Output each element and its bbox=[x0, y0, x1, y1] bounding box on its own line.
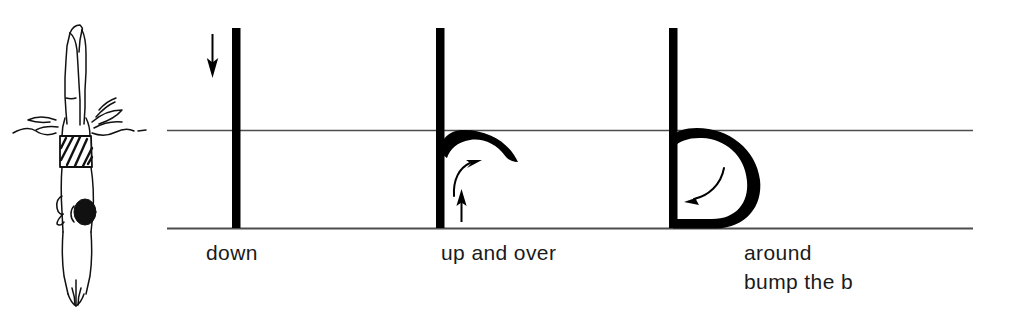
letter-stem-step1 bbox=[232, 28, 241, 228]
step-1-group bbox=[207, 28, 241, 228]
down-arrow-icon bbox=[207, 34, 218, 78]
step-2-group bbox=[436, 28, 518, 228]
letter-formation-worksheet bbox=[160, 0, 1014, 318]
step-3-label-line-2: bump the b bbox=[744, 267, 853, 296]
handwriting-worksheet-page: down up and over around bump the b bbox=[0, 0, 1014, 318]
curved-arrow-around-icon bbox=[684, 168, 724, 205]
letter-stem-step3 bbox=[669, 28, 678, 228]
step-1-label: down bbox=[206, 238, 258, 267]
letter-hook-step2 bbox=[441, 130, 518, 162]
guideline-group bbox=[167, 131, 973, 229]
letter-bowl-step3 bbox=[672, 128, 760, 229]
curved-arrow-over-icon bbox=[454, 160, 482, 196]
up-arrow-icon bbox=[456, 189, 466, 222]
step-2-label: up and over bbox=[441, 238, 556, 267]
step-3-label-line-1: around bbox=[744, 238, 853, 267]
step-3-label: around bump the b bbox=[744, 238, 853, 296]
diver-illustration bbox=[0, 0, 160, 318]
step-3-group bbox=[669, 28, 760, 229]
letter-stem-step2 bbox=[436, 28, 445, 228]
